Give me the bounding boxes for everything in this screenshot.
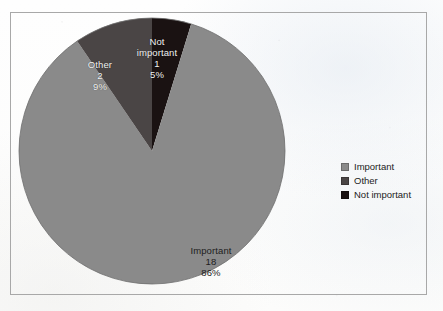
legend-label-not-important: Not important [354,190,411,200]
legend-swatch-other-icon [341,177,349,185]
chart-legend: Important Other Not important [341,161,433,202]
legend-item-important[interactable]: Important [341,161,433,173]
pie-svg [18,17,286,285]
pie-chart-figure: Not important 1 5% Other 2 9% Important … [0,0,443,311]
pie-chart-area: Not important 1 5% Other 2 9% Important … [18,17,286,285]
pie-slices [19,18,285,284]
legend-item-not-important[interactable]: Not important [341,189,433,201]
legend-label-important: Important [354,162,394,172]
legend-swatch-not-important-icon [341,191,349,199]
legend-item-other[interactable]: Other [341,175,433,187]
legend-swatch-important-icon [341,163,349,171]
legend-label-other: Other [354,176,378,186]
